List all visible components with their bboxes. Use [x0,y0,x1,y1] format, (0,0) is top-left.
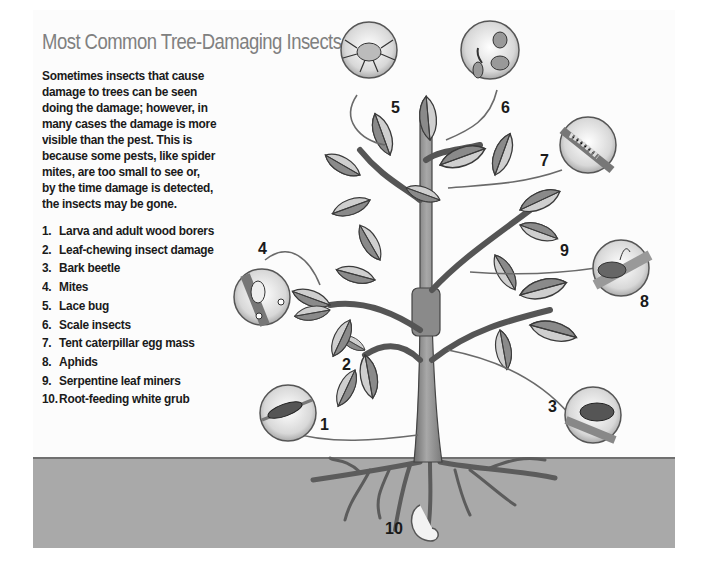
callout-number-5: 5 [391,99,400,116]
callout-number-7: 7 [540,152,549,169]
white-grub [412,505,439,541]
callout-circle-8 [593,240,650,296]
callout-number-4: 4 [258,240,267,257]
tree-illustration: 1 2 3 4 5 6 7 8 9 10 [0,0,707,572]
callout-circle-5 [341,22,397,78]
callout-number-8: 8 [640,293,649,310]
callout-number-3: 3 [548,398,557,415]
callout-circle-7 [560,117,616,173]
callout-circle-6 [461,21,519,79]
callout-number-2: 2 [342,356,351,373]
callout-number-9: 9 [560,242,569,259]
roots [313,458,555,530]
callout-circle-3 [565,387,621,443]
callout-number-10: 10 [385,520,403,537]
callout-number-1: 1 [320,416,329,433]
leaves [290,95,579,409]
callout-circle-4 [234,269,290,325]
callout-circle-1 [260,385,316,441]
callout-number-6: 6 [501,99,510,116]
